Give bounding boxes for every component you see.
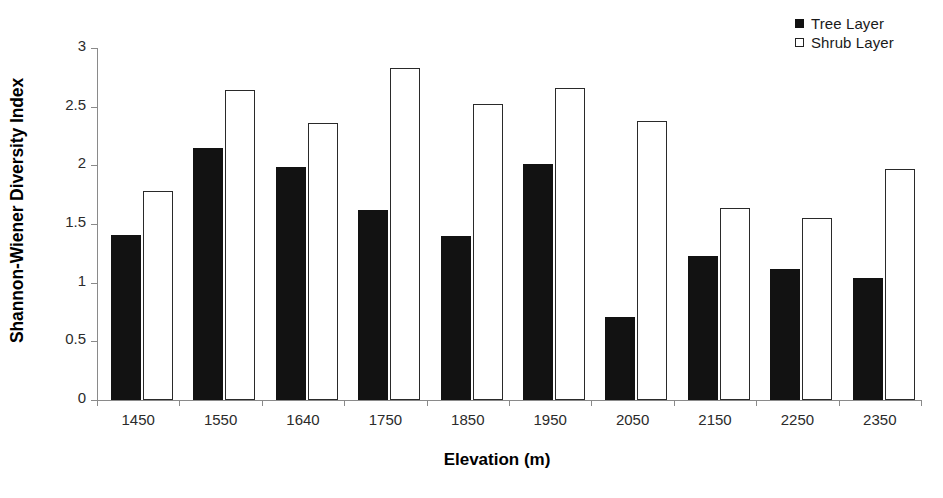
- y-axis-tick: 1: [0, 283, 97, 284]
- y-axis-title-text: Shannon-Wiener Diversity Index: [8, 77, 29, 342]
- bar-shrub-layer: [720, 208, 750, 400]
- bar-shrub-layer: [473, 104, 503, 400]
- legend-label-tree-layer: Tree Layer: [811, 15, 884, 32]
- chart-legend: Tree Layer Shrub Layer: [795, 14, 935, 52]
- y-tick-label: 0.5: [65, 330, 86, 347]
- bar-tree-layer: [523, 164, 553, 400]
- x-tick-label: 1550: [186, 411, 256, 428]
- open-square-icon: [795, 38, 804, 47]
- y-axis-tick: 0: [0, 400, 97, 401]
- y-axis-tick: 3: [0, 48, 97, 49]
- x-tick-mark: [179, 400, 180, 406]
- y-tick-label: 2.5: [65, 96, 86, 113]
- x-tick-mark: [674, 400, 675, 406]
- x-tick-label: 1850: [433, 411, 503, 428]
- bar-tree-layer: [111, 235, 141, 400]
- bar-tree-layer: [358, 210, 388, 400]
- bar-tree-layer: [770, 269, 800, 400]
- x-tick-label: 2350: [845, 411, 915, 428]
- legend-item-tree-layer: Tree Layer: [795, 14, 935, 33]
- y-tick-label: 1: [78, 272, 86, 289]
- x-tick-label: 2050: [598, 411, 668, 428]
- bar-tree-layer: [276, 167, 306, 400]
- x-tick-label: 1750: [350, 411, 420, 428]
- x-axis-title: Elevation (m): [97, 450, 897, 470]
- filled-square-icon: [795, 19, 804, 28]
- bar-tree-layer: [193, 148, 223, 400]
- x-tick-label: 1450: [103, 411, 173, 428]
- y-axis-tick: 2: [0, 165, 97, 166]
- bar-shrub-layer: [637, 121, 667, 400]
- bar-shrub-layer: [143, 191, 173, 400]
- x-tick-mark: [591, 400, 592, 406]
- x-tick-label: 1950: [515, 411, 585, 428]
- y-tick-label: 2: [78, 154, 86, 171]
- y-tick-label: 0: [78, 389, 86, 406]
- bar-tree-layer: [605, 317, 635, 400]
- bar-shrub-layer: [225, 90, 255, 400]
- y-tick-label: 3: [78, 37, 86, 54]
- bar-shrub-layer: [885, 169, 915, 400]
- bar-shrub-layer: [802, 218, 832, 400]
- bar-tree-layer: [441, 236, 471, 400]
- y-axis-tick: 1.5: [0, 224, 97, 225]
- x-tick-label: 1640: [268, 411, 338, 428]
- bar-chart-figure: Tree Layer Shrub Layer Shannon-Wiener Di…: [0, 0, 943, 498]
- x-tick-label: 2250: [762, 411, 832, 428]
- x-tick-mark: [344, 400, 345, 406]
- bar-tree-layer: [853, 278, 883, 400]
- bar-shrub-layer: [390, 68, 420, 400]
- x-tick-mark: [756, 400, 757, 406]
- x-tick-mark: [262, 400, 263, 406]
- y-axis-title: Shannon-Wiener Diversity Index: [0, 0, 36, 420]
- bar-tree-layer: [688, 256, 718, 400]
- y-axis-tick: 2.5: [0, 107, 97, 108]
- x-tick-mark: [97, 400, 98, 406]
- bar-shrub-layer: [555, 88, 585, 400]
- x-tick-mark: [921, 400, 922, 406]
- x-tick-mark: [509, 400, 510, 406]
- x-tick-mark: [427, 400, 428, 406]
- bar-shrub-layer: [308, 123, 338, 400]
- y-axis-tick: 0.5: [0, 341, 97, 342]
- y-tick-label: 1.5: [65, 213, 86, 230]
- x-tick-mark: [839, 400, 840, 406]
- plot-area: [97, 48, 921, 400]
- x-tick-label: 2150: [680, 411, 750, 428]
